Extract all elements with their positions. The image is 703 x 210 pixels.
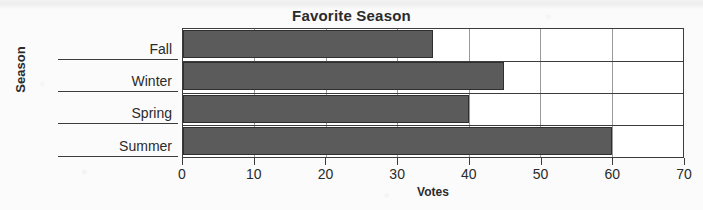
x-tick-label-20: 20: [318, 166, 334, 182]
category-label-row: Spring: [40, 92, 178, 124]
bar-track-summer: [183, 126, 683, 158]
x-tick-label-70: 70: [676, 166, 692, 182]
x-tick-70: [684, 158, 685, 165]
bar-track-spring: [183, 94, 683, 126]
x-tick-label-40: 40: [461, 166, 477, 182]
bar-winter[interactable]: [183, 62, 504, 90]
bar-fall[interactable]: [183, 30, 433, 58]
bar-track-winter: [183, 61, 683, 93]
bar-spring[interactable]: [183, 95, 469, 123]
x-tick-label-50: 50: [533, 166, 549, 182]
x-tick-10: [254, 158, 255, 165]
plot-area: [182, 28, 684, 158]
category-label-row: Fall: [40, 28, 178, 60]
category-label-row: Winter: [40, 60, 178, 92]
x-tick-label-30: 30: [389, 166, 405, 182]
x-tick-label-0: 0: [178, 166, 186, 182]
x-tick-20: [325, 158, 326, 165]
category-label-column: Fall Winter Spring Summer: [40, 28, 178, 158]
x-tick-40: [469, 158, 470, 165]
category-label-spring: Spring: [132, 105, 172, 121]
x-tick-30: [397, 158, 398, 165]
category-label-winter: Winter: [132, 73, 172, 89]
y-axis-title: Season: [13, 30, 28, 110]
category-rule: [58, 156, 178, 157]
x-tick-60: [612, 158, 613, 165]
chart-title: Favorite Season: [0, 7, 703, 24]
bar-chart: Favorite Season Season Fall Winter Sprin…: [0, 0, 703, 210]
x-tick-0: [182, 158, 183, 165]
x-tick-label-10: 10: [246, 166, 262, 182]
x-axis-title: Votes: [182, 185, 684, 199]
bar-summer[interactable]: [183, 127, 612, 155]
bar-track-fall: [183, 29, 683, 61]
x-tick-50: [541, 158, 542, 165]
category-rule: [58, 123, 178, 124]
category-label-summer: Summer: [119, 138, 172, 154]
x-tick-label-60: 60: [604, 166, 620, 182]
category-label-fall: Fall: [149, 41, 172, 57]
x-axis: 0 10 20 30 40 50 60 70: [182, 158, 684, 159]
category-label-row: Summer: [40, 125, 178, 157]
